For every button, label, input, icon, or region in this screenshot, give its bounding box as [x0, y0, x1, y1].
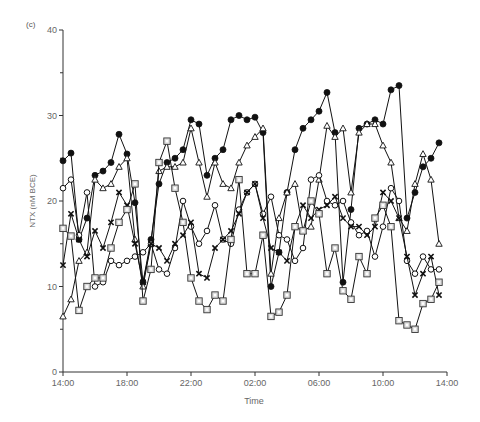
marker-open-triangle — [428, 176, 434, 182]
marker-cross — [300, 203, 305, 208]
marker-square-inner — [366, 272, 368, 274]
marker-square-inner — [382, 204, 384, 206]
marker-square-inner — [286, 294, 288, 296]
marker-open-diamond — [140, 250, 146, 256]
marker-open-diamond — [284, 237, 290, 243]
marker-open-triangle — [236, 159, 242, 165]
marker-open-diamond — [380, 224, 386, 230]
marker-open-diamond — [124, 258, 130, 264]
marker-square-inner — [230, 238, 232, 240]
marker-open-triangle — [324, 122, 330, 128]
series-cross — [60, 181, 441, 297]
marker-square-inner — [270, 315, 272, 317]
marker-open-diamond — [412, 271, 418, 277]
marker-square-inner — [86, 285, 88, 287]
marker-square-inner — [190, 277, 192, 279]
marker-filled-circle — [228, 117, 234, 123]
marker-filled-circle — [268, 284, 274, 290]
marker-square-inner — [70, 235, 72, 237]
marker-square-inner — [414, 328, 416, 330]
marker-filled-circle — [60, 158, 66, 164]
marker-open-diamond — [356, 232, 362, 238]
marker-square-inner — [342, 290, 344, 292]
marker-filled-circle — [132, 200, 138, 206]
marker-filled-circle — [308, 117, 314, 123]
marker-open-triangle — [60, 313, 66, 319]
marker-cross — [332, 194, 337, 199]
marker-open-triangle — [204, 193, 210, 199]
marker-open-diamond — [420, 254, 426, 260]
marker-square-inner — [222, 300, 224, 302]
marker-square-inner — [78, 309, 80, 311]
marker-filled-circle — [244, 117, 250, 123]
marker-cross — [420, 271, 425, 276]
marker-open-diamond — [372, 254, 378, 260]
marker-square-inner — [206, 308, 208, 310]
marker-open-diamond — [308, 177, 314, 183]
marker-filled-circle — [100, 168, 106, 174]
marker-filled-circle — [348, 207, 354, 213]
marker-cross — [340, 216, 345, 221]
marker-open-diamond — [108, 258, 114, 264]
marker-open-diamond — [164, 271, 170, 277]
marker-open-triangle — [308, 223, 314, 229]
marker-open-triangle — [292, 181, 298, 187]
marker-filled-circle — [292, 147, 298, 153]
y-tick-label: 40 — [47, 25, 57, 35]
series-line — [63, 86, 439, 287]
marker-cross — [92, 228, 97, 233]
marker-open-diamond — [388, 185, 394, 191]
x-tick-label: 22:00 — [180, 378, 203, 388]
marker-filled-circle — [188, 117, 194, 123]
marker-square-inner — [422, 302, 424, 304]
x-tick-label: 10:00 — [372, 378, 395, 388]
line-chart: 01020304014:0018:0022:0002:0006:0010:001… — [0, 0, 480, 422]
marker-open-diamond — [292, 258, 298, 264]
marker-square-inner — [262, 234, 264, 236]
marker-square-inner — [174, 187, 176, 189]
x-tick-label: 14:00 — [52, 378, 75, 388]
marker-filled-circle — [324, 89, 330, 95]
marker-open-diamond — [204, 228, 210, 234]
y-tick-label: 10 — [47, 282, 57, 292]
marker-open-diamond — [316, 173, 322, 179]
marker-filled-circle — [388, 87, 394, 93]
marker-square-inner — [134, 183, 136, 185]
marker-square-inner — [374, 217, 376, 219]
marker-open-diamond — [84, 190, 90, 196]
marker-open-diamond — [180, 198, 186, 204]
marker-square-inner — [102, 277, 104, 279]
marker-open-diamond — [340, 198, 346, 204]
marker-open-triangle — [380, 142, 386, 148]
marker-square-inner — [142, 300, 144, 302]
marker-cross — [164, 258, 169, 263]
marker-filled-circle — [316, 108, 322, 114]
marker-open-diamond — [116, 262, 122, 268]
marker-square-inner — [398, 320, 400, 322]
y-tick-label: 20 — [47, 196, 57, 206]
marker-filled-circle — [380, 121, 386, 127]
marker-square-inner — [238, 178, 240, 180]
marker-square-inner — [166, 140, 168, 142]
marker-open-diamond — [276, 232, 282, 238]
marker-filled-circle — [116, 131, 122, 137]
marker-square-inner — [438, 281, 440, 283]
marker-filled-circle — [428, 155, 434, 161]
marker-square-inner — [198, 300, 200, 302]
marker-filled-circle — [68, 150, 74, 156]
marker-square-inner — [406, 324, 408, 326]
marker-open-triangle — [412, 181, 418, 187]
x-tick-label: 18:00 — [116, 378, 139, 388]
plot-area — [60, 83, 442, 333]
marker-open-diamond — [156, 267, 162, 273]
marker-open-triangle — [388, 159, 394, 165]
marker-square-inner — [326, 272, 328, 274]
series-line — [63, 184, 439, 295]
marker-square-inner — [158, 161, 160, 163]
marker-square-inner — [358, 255, 360, 257]
marker-square-inner — [94, 277, 96, 279]
marker-open-triangle — [68, 296, 74, 302]
marker-open-triangle — [220, 181, 226, 187]
marker-cross — [156, 245, 161, 250]
marker-open-diamond — [68, 177, 74, 183]
